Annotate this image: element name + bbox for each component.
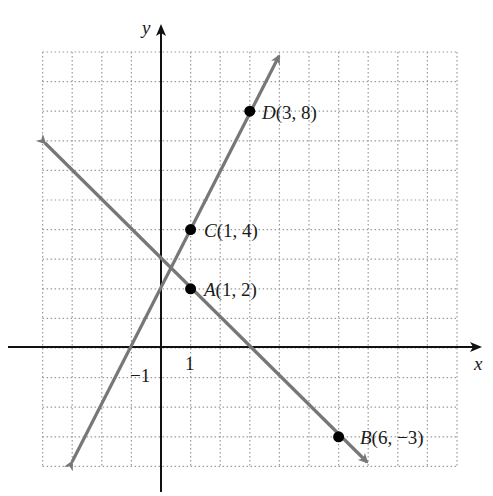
point-d [244,106,255,117]
point-c [185,224,196,235]
label-d: D(3, 8) [261,102,317,124]
point-a [185,283,196,294]
line-ab [45,143,367,462]
x-axis-label: x [473,353,483,374]
label-c: C(1, 4) [204,220,258,242]
point-b [333,431,344,442]
y-axis-label: y [140,17,151,38]
label-b: B(6, −3) [360,427,423,449]
label-a: A(1, 2) [202,279,257,301]
tick-label-x-1: 1 [185,353,195,374]
tick-label-neg-1: −1 [130,365,150,386]
coordinate-plane: A(1, 2) B(6, −3) C(1, 4) D(3, 8) x y 1 −… [0,0,493,496]
